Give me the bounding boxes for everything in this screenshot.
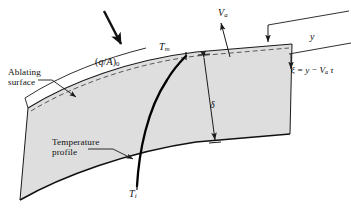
- initial-temperature-subscript: i: [135, 192, 137, 199]
- temperature-profile-label: Temperature profile: [52, 137, 99, 158]
- ablation-velocity-subscript: a: [224, 11, 228, 18]
- y-coordinate-symbol: y: [310, 31, 315, 42]
- xi-equals: =: [295, 65, 305, 75]
- original-surface-left-cap: [25, 98, 28, 108]
- thickness-tick-bottom: [209, 142, 221, 143]
- reference-line-lower: [289, 43, 351, 54]
- surface-temperature-label: Tm: [159, 41, 170, 53]
- thickness-symbol: δ: [210, 99, 215, 110]
- slab-body: [20, 44, 292, 200]
- ablation-diagram-figure: Ablating surface Temperature profile (q/…: [0, 0, 351, 214]
- y-coordinate-label: y: [310, 31, 315, 42]
- heat-flux-label: (q/A)0: [95, 56, 120, 68]
- ablation-velocity-label: Va: [218, 7, 228, 19]
- heat-flux-subscript: 0: [116, 60, 120, 67]
- ablating-surface-label-line1: Ablating: [8, 67, 41, 77]
- surface-temperature-subscript: m: [165, 45, 170, 52]
- reference-line-upper: [268, 11, 349, 25]
- xi-equation-label: ξ = y − Vaτ: [291, 65, 334, 75]
- ablating-surface-label: Ablating surface: [8, 67, 41, 88]
- diagram-canvas: [0, 0, 351, 214]
- temperature-profile-label-line1: Temperature: [52, 137, 99, 147]
- thickness-label: δ: [210, 99, 215, 110]
- temperature-profile-label-line2: profile: [52, 147, 99, 157]
- initial-temperature-label: Ti: [129, 188, 137, 200]
- xi-tau-symbol: τ: [328, 65, 333, 75]
- xi-minus: −: [309, 65, 319, 75]
- ablating-surface-label-line2: surface: [8, 77, 41, 87]
- heat-flux-arrow: [104, 11, 121, 44]
